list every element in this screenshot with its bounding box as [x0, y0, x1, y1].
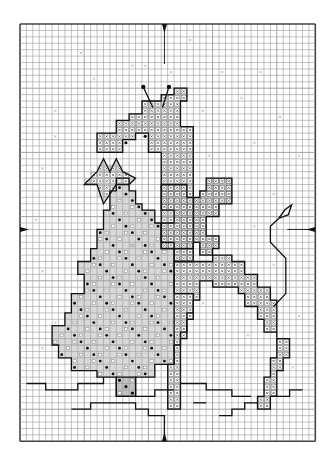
stitch-box	[105, 308, 108, 311]
stitch-box	[86, 308, 89, 311]
snow-x	[253, 142, 255, 144]
stitch-box	[124, 251, 127, 254]
stitch-heart-dot	[157, 225, 160, 228]
stitch-box	[99, 257, 102, 260]
stitch-box	[150, 225, 153, 228]
stitch-box	[118, 180, 121, 183]
stitch-box	[131, 283, 134, 286]
stitch-heart-dot	[60, 353, 63, 356]
stitch-box	[105, 347, 108, 350]
stitch-box	[118, 353, 121, 356]
stitch-box	[156, 334, 159, 337]
stitch-box	[150, 360, 153, 363]
stitch-box	[163, 270, 166, 273]
stitch-box	[118, 257, 121, 260]
stitch-box	[163, 289, 166, 292]
stitch-box	[67, 347, 70, 350]
stitch-box	[150, 244, 153, 247]
stitch-heart-dot	[99, 360, 102, 363]
stitch-box	[118, 392, 121, 395]
stitch-box	[137, 315, 140, 318]
bottom-center-arrow	[162, 432, 167, 441]
snow-x	[253, 225, 255, 227]
stitch-heart-dot	[112, 244, 115, 247]
stitch-heart-dot	[86, 283, 89, 286]
stitch-heart-dot	[99, 263, 102, 266]
stitch-heart-dot	[131, 360, 134, 363]
stitch-box	[131, 321, 134, 324]
stitch-box	[124, 308, 127, 311]
stitch-heart-dot	[99, 231, 102, 234]
stitch-box	[99, 315, 102, 318]
stitch-box	[79, 296, 82, 299]
snow-x	[260, 71, 262, 73]
stitch-heart-dot	[80, 308, 83, 311]
stitch-heart-dot	[125, 257, 128, 260]
stitch-heart-dot	[137, 366, 140, 369]
right-center-arrow	[306, 227, 315, 232]
snow-x	[247, 334, 249, 336]
stitch-heart-dot	[118, 379, 121, 382]
stitch-box	[156, 315, 159, 318]
stitch-box	[105, 328, 108, 331]
stitch-box	[105, 289, 108, 292]
stitch-box	[131, 379, 134, 382]
eye-dot	[144, 135, 147, 138]
stitch-box	[105, 231, 108, 234]
stitch-box	[111, 206, 114, 209]
stitch-box	[124, 347, 127, 350]
stitch-box	[105, 251, 108, 254]
stitch-heart-dot	[144, 308, 147, 311]
stitch-heart-dot	[125, 225, 128, 228]
stitch-heart-dot	[112, 340, 115, 343]
stitch-heart-dot	[131, 263, 134, 266]
stitch-box	[118, 296, 121, 299]
stitch-box	[73, 321, 76, 324]
stitch-box	[99, 373, 102, 376]
stitch-heart-dot	[169, 302, 172, 305]
stitch-box	[118, 334, 121, 337]
stitch-box	[73, 360, 76, 363]
stitch-box	[118, 199, 121, 202]
stitch-box	[118, 373, 121, 376]
stitch-heart-dot	[131, 328, 134, 331]
stitch-heart-dot	[163, 263, 166, 266]
snow-x	[41, 347, 43, 349]
stitch-heart-dot	[105, 302, 108, 305]
snow-x	[202, 302, 204, 304]
stitch-box	[92, 360, 95, 363]
stitch-box	[169, 263, 172, 266]
ossicone-left-tip	[141, 85, 145, 89]
snow-x	[298, 155, 300, 157]
stitch-heart-dot	[92, 289, 95, 292]
stitch-heart-dot	[150, 251, 153, 254]
stitch-box	[105, 212, 108, 215]
stitch-box	[163, 347, 166, 350]
stitch-box	[54, 340, 57, 343]
stitch-box	[144, 347, 147, 350]
stitch-heart-dot	[163, 360, 166, 363]
snow-x	[272, 264, 274, 266]
stitch-heart-dot	[86, 347, 89, 350]
stitch-heart-dot	[137, 270, 140, 273]
stitch-box	[163, 308, 166, 311]
stitch-box	[169, 360, 172, 363]
stitch-heart-dot	[137, 238, 140, 241]
snow-x	[272, 193, 274, 195]
stitch-box	[79, 353, 82, 356]
snow-x	[170, 71, 172, 73]
stitch-box	[111, 225, 114, 228]
stitch-heart-dot	[73, 302, 76, 305]
stitch-box	[92, 302, 95, 305]
stitch-box	[118, 276, 121, 279]
stitch-heart-dot	[157, 257, 160, 260]
snow-x	[144, 65, 146, 67]
stitch-heart-dot	[105, 334, 108, 337]
stitch-heart-dot	[80, 340, 83, 343]
stitch-heart-dot	[131, 231, 134, 234]
stitch-heart-dot	[137, 334, 140, 337]
stitch-box	[137, 219, 140, 222]
stitch-box	[111, 263, 114, 266]
stitch-heart-dot	[118, 251, 121, 254]
stitch-heart-dot	[118, 347, 121, 350]
